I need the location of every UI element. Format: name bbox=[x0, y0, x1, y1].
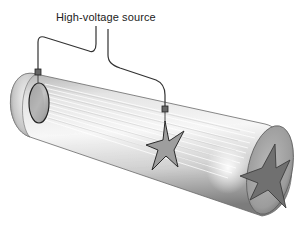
cathode-terminal bbox=[35, 69, 41, 75]
cathode-disc bbox=[29, 83, 49, 123]
beam-glow bbox=[206, 142, 250, 194]
anode-terminal bbox=[162, 106, 168, 112]
wire-to-cathode bbox=[38, 26, 96, 70]
cathode-ray-tube-diagram bbox=[0, 0, 298, 230]
